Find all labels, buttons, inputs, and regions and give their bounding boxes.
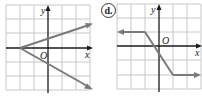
- upper-ray: [20, 25, 89, 48]
- graph-d-plot: [116, 3, 202, 93]
- graph-d-label: d.: [101, 3, 116, 18]
- origin-label: O: [40, 51, 47, 61]
- lower-ray: [20, 48, 89, 87]
- origin-label: O: [162, 36, 169, 46]
- graph-c: y x O: [5, 4, 93, 94]
- right-ray-arrow-icon: [194, 72, 201, 78]
- y-axis-arrow-icon: [46, 5, 51, 11]
- graph-c-plot: [5, 4, 93, 94]
- left-ray-arrow-icon: [117, 29, 124, 35]
- y-axis-label: y: [41, 6, 45, 16]
- x-axis-label: x: [195, 48, 199, 58]
- upper-ray-arrow-icon: [85, 23, 93, 29]
- y-axis-arrow-icon: [157, 4, 162, 10]
- y-axis-label: y: [151, 5, 155, 15]
- x-axis-label: x: [85, 50, 89, 60]
- graph-d: y x O: [116, 3, 202, 93]
